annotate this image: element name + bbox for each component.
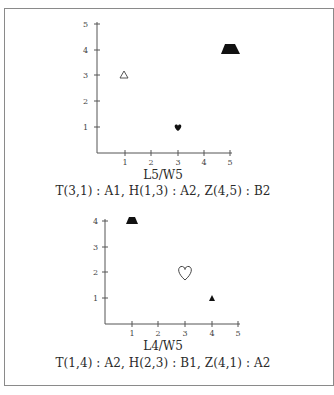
y-tick-4: 4 [83,46,88,55]
chart-top-tick-labels: 5 4 3 2 1 1 2 3 4 5 [83,20,233,167]
x-tick-5: 5 [227,158,232,167]
chart-bottom-axis-label: L4/W5 [0,339,326,353]
chart-top-axis-label: L5/W5 [0,168,326,182]
chart-top-axes [94,22,232,156]
trapezoid-filled-icon [221,44,240,54]
chart-top-caption: T(3,1) : A1, H(1,3) : A2, Z(4,5) : B2 [0,184,326,198]
x-tick-2: 2 [148,158,153,167]
chart-top: 5 4 3 2 1 1 2 3 4 5 [0,0,326,170]
y-tick-2: 2 [83,97,88,106]
x-tick-1: 1 [122,158,127,167]
y-tick-3: 3 [83,71,88,80]
y-tick-1: 1 [83,123,88,132]
x-tick-4: 4 [201,158,206,167]
x-tick-3: 3 [175,158,180,167]
y-tick-5: 5 [83,20,88,29]
heart-filled-icon [175,124,182,131]
chart-bottom-caption: T(1,4) : A2, H(2,3) : B1, Z(4,1) : A2 [0,356,326,370]
triangle-outline-icon [120,71,128,78]
